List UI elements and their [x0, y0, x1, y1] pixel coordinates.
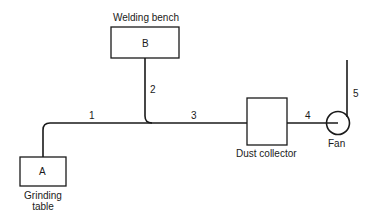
segment-label-1: 1	[89, 110, 95, 121]
grinding-table-label-line1: Grinding	[18, 190, 68, 201]
welding-bench-letter: B	[142, 38, 149, 49]
duct-diagram	[0, 0, 373, 220]
duct-segment-1	[43, 123, 148, 157]
grinding-table-letter: A	[39, 166, 46, 177]
fan-label: Fan	[328, 138, 345, 149]
grinding-table-label-line2: table	[18, 201, 68, 212]
welding-bench-label: Welding bench	[113, 12, 179, 23]
segment-label-3: 3	[191, 110, 197, 121]
segment-label-4: 4	[305, 110, 311, 121]
segment-label-5: 5	[353, 88, 359, 99]
segment-label-2: 2	[150, 84, 156, 95]
dust-collector-box	[247, 98, 287, 145]
dust-collector-label: Dust collector	[236, 148, 297, 159]
grinding-table-label: Grinding table	[18, 190, 68, 212]
